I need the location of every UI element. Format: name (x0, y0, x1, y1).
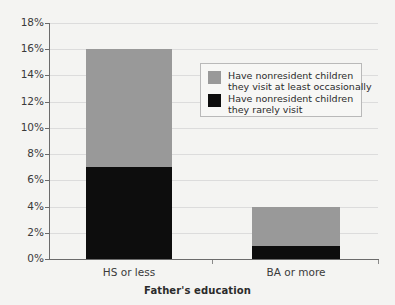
category-label-ba-or-more: BA or more (216, 266, 376, 278)
y-tick-label-10: 10% (4, 122, 44, 133)
legend-item-visit-occasionally: Have nonresident children they visit at … (208, 70, 372, 92)
y-tick-label-4: 4% (4, 201, 44, 212)
y-tick-0 (45, 259, 50, 260)
legend-label-line1: Have nonresident children (228, 93, 353, 104)
y-tick-label-14: 14% (4, 69, 44, 80)
y-tick-12 (45, 102, 50, 103)
x-axis-title: Father's education (0, 285, 395, 296)
legend-label-line1: Have nonresident children (228, 70, 372, 81)
y-tick-label-16: 16% (4, 43, 44, 54)
legend-label-line2: they rarely visit (228, 104, 353, 115)
bar-hs-or-less (86, 49, 172, 259)
y-tick-label-8: 8% (4, 148, 44, 159)
x-tick-end (378, 260, 379, 264)
legend-label-line2: they visit at least occasionally (228, 81, 372, 92)
category-label-hs-or-less: HS or less (49, 266, 209, 278)
gridline-18 (50, 23, 378, 24)
x-axis-line (49, 259, 379, 260)
bar-segment-visit-occasionally (252, 207, 340, 246)
y-tick-4 (45, 207, 50, 208)
bar-segment-rarely-visit (86, 167, 172, 259)
legend-swatch-gray-icon (208, 71, 221, 84)
y-tick-label-0: 0% (4, 253, 44, 264)
bar-segment-rarely-visit (252, 246, 340, 259)
y-tick-16 (45, 49, 50, 50)
y-axis-line (49, 23, 50, 260)
y-tick-label-12: 12% (4, 96, 44, 107)
y-tick-label-6: 6% (4, 174, 44, 185)
bar-ba-or-more (252, 207, 340, 259)
legend-label-visit-occasionally: Have nonresident children they visit at … (228, 70, 372, 92)
legend-swatch-black-icon (208, 94, 221, 107)
y-tick-8 (45, 154, 50, 155)
stacked-bar-chart: 18% 16% 14% 12% 10% 8% 6% 4% 2% 0% HS or… (0, 0, 395, 305)
y-tick-6 (45, 180, 50, 181)
bar-segment-visit-occasionally (86, 49, 172, 167)
y-tick-14 (45, 75, 50, 76)
y-tick-2 (45, 233, 50, 234)
legend-label-rarely-visit: Have nonresident children they rarely vi… (228, 93, 353, 115)
y-tick-label-18: 18% (4, 17, 44, 28)
x-tick-divider (212, 260, 213, 264)
legend-item-rarely-visit: Have nonresident children they rarely vi… (208, 93, 353, 115)
legend: Have nonresident children they visit at … (200, 63, 362, 117)
y-tick-10 (45, 128, 50, 129)
y-tick-label-2: 2% (4, 227, 44, 238)
plot-area (50, 23, 378, 259)
y-tick-18 (45, 23, 50, 24)
